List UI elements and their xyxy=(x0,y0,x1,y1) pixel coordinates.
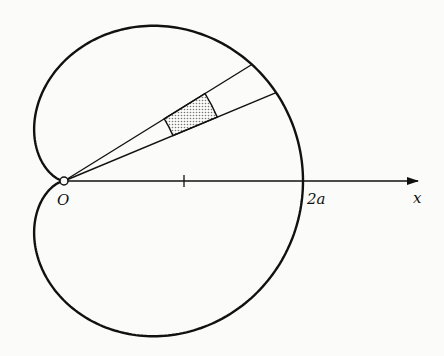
origin-point xyxy=(60,177,68,185)
axis-label-x: x xyxy=(413,189,421,207)
intercept-label-2a: 2a xyxy=(307,190,326,208)
origin-label: O xyxy=(57,191,69,209)
cardioid-diagram xyxy=(0,0,444,356)
